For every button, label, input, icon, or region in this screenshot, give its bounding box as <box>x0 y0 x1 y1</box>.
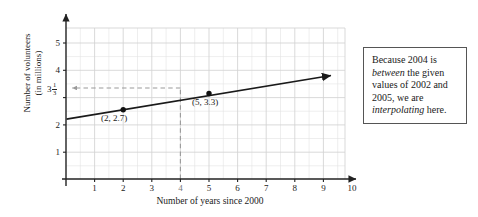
x-axis-label: Number of years since 2000 <box>60 196 360 206</box>
interpolation-line-chart: Number of volunteers (in millions) Numbe… <box>0 0 478 217</box>
x-tick-label-1: 1 <box>86 183 104 193</box>
callout-text-1: Because 2004 is <box>372 54 437 65</box>
y-tick-label-2: 2 <box>46 120 60 130</box>
mixed-whole: 3 <box>47 85 52 94</box>
interpolation-callout-box: Because 2004 is between the given values… <box>363 47 467 124</box>
y-axis-label: Number of volunteers (in millions) <box>22 0 44 153</box>
y-tick-label-interpolated: 3 1 3 <box>47 82 57 96</box>
x-tick-label-2: 2 <box>114 183 132 193</box>
y-tick-label-4: 4 <box>46 65 60 75</box>
x-tick-label-10: 10 <box>341 183 363 193</box>
callout-text-3: here. <box>424 104 446 115</box>
y-tick-label-5: 5 <box>46 38 60 48</box>
x-tick-label-9: 9 <box>314 183 332 193</box>
y-tick-label-1: 1 <box>46 147 60 157</box>
x-tick-label-7: 7 <box>257 183 275 193</box>
x-tick-label-8: 8 <box>286 183 304 193</box>
data-point-label-1: (2, 2.7) <box>101 113 127 123</box>
callout-emphasis-interpolating: interpolating <box>372 104 424 115</box>
x-tick-label-3: 3 <box>143 183 161 193</box>
x-tick-label-6: 6 <box>229 183 247 193</box>
x-tick-label-5: 5 <box>200 183 218 193</box>
callout-emphasis-between: between <box>372 67 405 78</box>
interpolation-guides <box>72 88 180 179</box>
fraction-denominator: 3 <box>52 89 57 97</box>
x-tick-label-4: 4 <box>171 183 189 193</box>
data-point-2-2-7 <box>121 107 126 112</box>
data-point-label-2: (5, 3.3) <box>192 97 218 107</box>
mixed-fraction: 1 3 <box>52 82 57 96</box>
data-point-5-3-3 <box>206 91 211 96</box>
